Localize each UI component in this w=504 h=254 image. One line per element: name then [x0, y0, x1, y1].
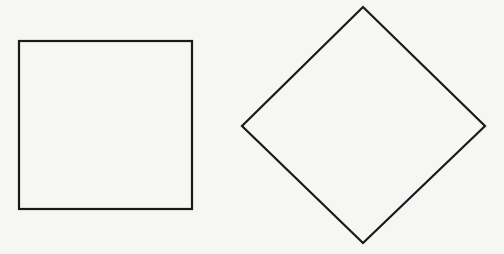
diagram-canvas [0, 0, 504, 254]
background [0, 0, 504, 254]
